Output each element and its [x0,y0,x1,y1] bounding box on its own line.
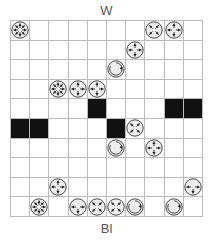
board-cell[interactable] [88,41,107,61]
board-cell[interactable] [184,21,203,41]
board-cell[interactable] [30,41,49,61]
board-cell[interactable] [126,158,145,178]
board-cell[interactable] [184,119,203,139]
board-cell[interactable] [165,178,184,198]
piece-diagonal-icon[interactable] [107,198,125,216]
board-cell[interactable] [30,21,49,41]
board-cell-blocked[interactable] [165,99,184,119]
board-cell[interactable] [145,178,164,198]
board-cell[interactable] [88,21,107,41]
board-cell[interactable] [145,99,164,119]
board-cell[interactable] [69,178,88,198]
piece-tee-down-icon[interactable] [69,198,87,216]
piece-orthogonal-icon[interactable] [165,21,183,39]
board-cell[interactable] [165,119,184,139]
board-cell[interactable] [30,178,49,198]
piece-orthogonal-icon[interactable] [88,80,106,98]
board-cell[interactable] [11,41,30,61]
board-cell[interactable] [88,178,107,198]
board-cell[interactable] [184,158,203,178]
board-cell[interactable] [49,197,68,217]
piece-rotator-icon[interactable] [107,60,125,78]
board-cell-blocked[interactable] [11,119,30,139]
board-cell[interactable] [49,41,68,61]
board-cell[interactable] [126,80,145,100]
board-cell[interactable] [165,197,184,217]
piece-eight-way-icon[interactable] [30,198,48,216]
piece-orthogonal-icon[interactable] [145,139,163,157]
piece-eight-way-icon[interactable] [49,80,67,98]
piece-eight-way-icon[interactable] [11,21,29,39]
board-cell-blocked[interactable] [88,99,107,119]
board-cell[interactable] [69,197,88,217]
board-cell[interactable] [145,197,164,217]
board-cell[interactable] [88,197,107,217]
board-cell[interactable] [49,80,68,100]
board-cell[interactable] [165,60,184,80]
piece-rotator-icon[interactable] [165,198,183,216]
board-cell[interactable] [88,139,107,159]
board-cell[interactable] [107,80,126,100]
piece-diagonal-icon[interactable] [126,119,144,137]
board-cell[interactable] [184,197,203,217]
board-cell[interactable] [107,178,126,198]
board-cell[interactable] [145,80,164,100]
board-cell[interactable] [88,60,107,80]
board-cell[interactable] [145,21,164,41]
board-cell[interactable] [165,158,184,178]
board-cell[interactable] [49,99,68,119]
board-cell[interactable] [69,139,88,159]
board-cell[interactable] [165,139,184,159]
board-cell[interactable] [107,21,126,41]
board-cell[interactable] [11,139,30,159]
board-cell[interactable] [126,119,145,139]
board-cell[interactable] [107,41,126,61]
piece-tee-down-icon[interactable] [184,178,202,196]
board-cell-blocked[interactable] [184,99,203,119]
board-cell[interactable] [126,99,145,119]
board-cell[interactable] [49,21,68,41]
board-cell[interactable] [126,178,145,198]
board-cell[interactable] [30,197,49,217]
board-cell[interactable] [145,158,164,178]
board-cell[interactable] [30,139,49,159]
board-cell[interactable] [69,80,88,100]
board-cell[interactable] [30,99,49,119]
board-cell[interactable] [11,178,30,198]
board-cell[interactable] [49,60,68,80]
board-cell[interactable] [107,158,126,178]
board-cell[interactable] [88,80,107,100]
board-cell[interactable] [145,60,164,80]
board-cell[interactable] [30,60,49,80]
piece-orthogonal-icon[interactable] [49,178,67,196]
board-cell[interactable] [165,41,184,61]
piece-diagonal-icon[interactable] [145,21,163,39]
board-cell[interactable] [126,197,145,217]
board-cell[interactable] [145,41,164,61]
board-cell[interactable] [126,60,145,80]
board-cell[interactable] [126,21,145,41]
board-cell[interactable] [107,139,126,159]
piece-orthogonal-icon[interactable] [69,80,87,98]
piece-orthogonal-icon[interactable] [126,41,144,59]
board-cell[interactable] [184,178,203,198]
board-cell[interactable] [145,119,164,139]
board-cell[interactable] [165,21,184,41]
board-cell[interactable] [69,21,88,41]
board-cell[interactable] [49,119,68,139]
board-cell-blocked[interactable] [30,119,49,139]
board-cell[interactable] [69,60,88,80]
game-board[interactable] [10,20,203,217]
board-cell[interactable] [69,99,88,119]
board-cell[interactable] [11,99,30,119]
board-cell[interactable] [88,119,107,139]
piece-rotator-icon[interactable] [107,139,125,157]
board-cell[interactable] [88,158,107,178]
board-cell[interactable] [184,41,203,61]
board-cell[interactable] [126,139,145,159]
board-cell[interactable] [165,80,184,100]
board-cell[interactable] [184,139,203,159]
board-cell[interactable] [11,197,30,217]
board-cell[interactable] [30,158,49,178]
board-cell-blocked[interactable] [107,119,126,139]
